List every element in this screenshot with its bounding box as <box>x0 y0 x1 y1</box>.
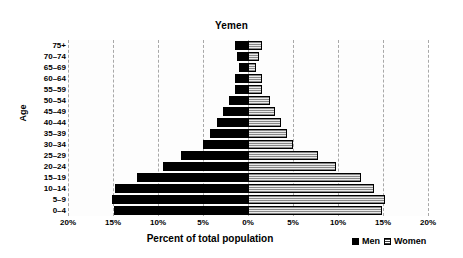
bar-women-10-14 <box>248 184 374 193</box>
bar-women-20-24 <box>248 162 336 171</box>
bar-men-15-19 <box>137 173 248 182</box>
bar-row <box>68 95 428 106</box>
y-tick-label: 55–59 <box>26 85 66 94</box>
bar-men-30-34 <box>203 140 248 149</box>
x-tick-label: 10% <box>318 218 358 227</box>
y-tick-label: 15–19 <box>26 173 66 182</box>
legend-swatch-men-icon <box>352 238 359 245</box>
bar-row <box>68 51 428 62</box>
y-tick-label: 50–54 <box>26 96 66 105</box>
bar-row <box>68 161 428 172</box>
y-tick-label: 35–39 <box>26 129 66 138</box>
bar-men-65-69 <box>239 63 248 72</box>
bar-row <box>68 128 428 139</box>
y-tick-label: 30–34 <box>26 140 66 149</box>
bar-row <box>68 40 428 51</box>
legend-swatch-women-icon <box>384 238 391 245</box>
bar-men-70-74 <box>237 52 248 61</box>
x-axis-title: Percent of total population <box>90 233 330 244</box>
bar-women-0-4 <box>248 206 382 215</box>
bar-men-20-24 <box>163 162 248 171</box>
bar-women-30-34 <box>248 140 293 149</box>
plot-area <box>68 40 428 216</box>
x-tick-label: 5% <box>273 218 313 227</box>
y-tick-label: 75+ <box>26 41 66 50</box>
bar-row <box>68 205 428 216</box>
bar-women-35-39 <box>248 129 287 138</box>
x-tick-label: 20% <box>408 218 448 227</box>
bar-women-65-69 <box>248 63 256 72</box>
x-tick-label: 0% <box>228 218 268 227</box>
x-tick-label: 15% <box>363 218 403 227</box>
y-tick-label: 65–69 <box>26 63 66 72</box>
y-tick-label: 60–64 <box>26 74 66 83</box>
bar-row <box>68 194 428 205</box>
bar-row <box>68 183 428 194</box>
bar-women-75+ <box>248 41 262 50</box>
bar-row <box>68 117 428 128</box>
bar-women-5-9 <box>248 195 385 204</box>
bars-layer <box>68 40 428 216</box>
bar-men-50-54 <box>229 96 248 105</box>
y-tick-label: 70–74 <box>26 52 66 61</box>
bar-men-75+ <box>235 41 248 50</box>
x-tick-label: 5% <box>183 218 223 227</box>
x-axis-tick-labels: 20%15%10%5%0%5%10%15%20% <box>68 218 428 230</box>
x-tick-label: 20% <box>48 218 88 227</box>
bar-row <box>68 62 428 73</box>
y-tick-label: 20–24 <box>26 162 66 171</box>
y-tick-label: 5–9 <box>26 195 66 204</box>
bar-men-5-9 <box>112 195 248 204</box>
x-tick-label: 10% <box>138 218 178 227</box>
bar-row <box>68 106 428 117</box>
chart-legend: Men Women <box>352 234 426 248</box>
bar-women-50-54 <box>248 96 270 105</box>
legend-label-men: Men <box>362 236 380 246</box>
bar-women-40-44 <box>248 118 281 127</box>
bar-men-35-39 <box>210 129 248 138</box>
y-tick-label: 10–14 <box>26 184 66 193</box>
y-tick-label: 45–49 <box>26 107 66 116</box>
bar-women-55-59 <box>248 85 262 94</box>
x-tick-label: 15% <box>93 218 133 227</box>
bar-row <box>68 150 428 161</box>
bar-women-15-19 <box>248 173 361 182</box>
bar-women-70-74 <box>248 52 259 61</box>
gridline-20%-right <box>428 40 429 216</box>
y-tick-label: 25–29 <box>26 151 66 160</box>
chart-title: Yemen <box>0 20 463 31</box>
y-tick-label: 0–4 <box>26 206 66 215</box>
legend-label-women: Women <box>394 236 426 246</box>
bar-row <box>68 73 428 84</box>
bar-row <box>68 172 428 183</box>
bar-women-45-49 <box>248 107 275 116</box>
bar-men-10-14 <box>115 184 248 193</box>
legend-item-women: Women <box>384 236 426 246</box>
bar-men-45-49 <box>223 107 248 116</box>
bar-women-25-29 <box>248 151 318 160</box>
bar-women-60-64 <box>248 74 262 83</box>
bar-row <box>68 84 428 95</box>
bar-men-55-59 <box>235 85 248 94</box>
legend-item-men: Men <box>352 236 380 246</box>
bar-row <box>68 139 428 150</box>
bar-men-60-64 <box>235 74 249 83</box>
y-axis-tick-labels: 0–45–910–1415–1920–2425–2930–3435–3940–4… <box>22 40 66 216</box>
bar-men-25-29 <box>181 151 248 160</box>
y-tick-label: 40–44 <box>26 118 66 127</box>
bar-men-40-44 <box>217 118 248 127</box>
population-pyramid-chart: Yemen Age 0–45–910–1415–1920–2425–2930–3… <box>0 0 463 258</box>
bar-men-0-4 <box>114 206 248 215</box>
